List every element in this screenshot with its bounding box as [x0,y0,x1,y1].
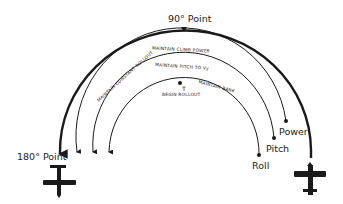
point-180-label: 180° Point [17,151,67,162]
airplane-start-icon [294,162,326,195]
power-dot [284,119,288,123]
climbing-turn-diagram [0,0,343,204]
begin-rollout-label: BEGIN ROLLOUT [162,92,200,97]
power-label: Power [279,126,308,137]
roll-label: Roll [252,160,269,171]
pitch-label: Pitch [266,143,289,154]
roll-dot [257,153,261,157]
begin-rollout-dot [178,81,182,85]
point-90-label: 90° Point [168,13,211,24]
airplane-end-icon [43,165,76,198]
pitch-dot [272,136,276,140]
